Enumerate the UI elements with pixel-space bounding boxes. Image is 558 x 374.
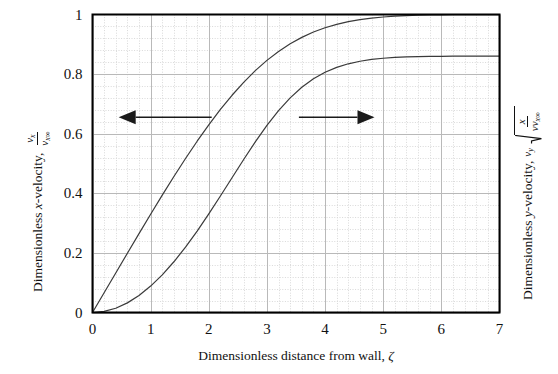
y-tick-label: 1 bbox=[75, 7, 83, 23]
y-tick-label: 0.4 bbox=[64, 185, 83, 201]
right-title-text: Dimensionless y-velocity, bbox=[520, 161, 536, 300]
y-axis-left-title: Dimensionless x-velocity, vx vx∞ bbox=[24, 130, 53, 292]
x-tick-label: 4 bbox=[321, 321, 329, 337]
radical-body: x νvx∞ bbox=[514, 106, 543, 135]
radical-sign-icon bbox=[514, 135, 543, 144]
right-axis-radical: x νvx∞ bbox=[514, 106, 543, 144]
x-axis-title-symbol: ζ bbox=[388, 348, 393, 363]
x-tick-label: 2 bbox=[205, 321, 213, 337]
minor-gridlines bbox=[93, 15, 500, 313]
x-tick-label: 0 bbox=[89, 321, 97, 337]
radical-denominator: νvx∞ bbox=[528, 109, 542, 134]
x-tick-label: 5 bbox=[379, 321, 387, 337]
curve-1 bbox=[93, 15, 500, 313]
right-axis-main-symbol: vy bbox=[521, 148, 535, 156]
left-fraction-numerator: vx bbox=[24, 132, 38, 144]
curve-2 bbox=[93, 56, 500, 312]
x-tick-label: 6 bbox=[438, 321, 446, 337]
x-axis-title-text: Dimensionless distance from wall, bbox=[198, 348, 385, 363]
radical-numerator: x bbox=[516, 116, 528, 127]
y-tick-label: 0.6 bbox=[64, 126, 83, 142]
x-tick-label: 7 bbox=[496, 321, 504, 337]
y-tick-label: 0.2 bbox=[64, 245, 83, 261]
y-axis-right-title: Dimensionless y-velocity, vy x νvx∞ bbox=[514, 106, 543, 300]
y-tick-label: 0 bbox=[75, 305, 83, 321]
major-gridlines bbox=[93, 15, 501, 314]
left-axis-symbol-fraction: vx vx∞ bbox=[24, 130, 53, 148]
data-curves bbox=[93, 15, 500, 313]
x-axis-tick-labels: 01234567 bbox=[89, 321, 504, 337]
x-tick-label: 3 bbox=[263, 321, 271, 337]
x-tick-label: 1 bbox=[147, 321, 155, 337]
x-axis-title: Dimensionless distance from wall, ζ bbox=[92, 348, 500, 364]
plot-frame bbox=[93, 15, 500, 313]
left-title-text: Dimensionless x-velocity, bbox=[30, 153, 46, 292]
blasius-velocity-profile-figure: 00.20.40.60.81 01234567 Dimensionless x-… bbox=[0, 0, 558, 374]
chart-canvas: 00.20.40.60.81 01234567 bbox=[0, 0, 558, 374]
y-tick-label: 0.8 bbox=[64, 66, 83, 82]
y-axis-tick-labels: 00.20.40.60.81 bbox=[64, 7, 83, 321]
left-fraction-denominator: vx∞ bbox=[38, 130, 52, 148]
